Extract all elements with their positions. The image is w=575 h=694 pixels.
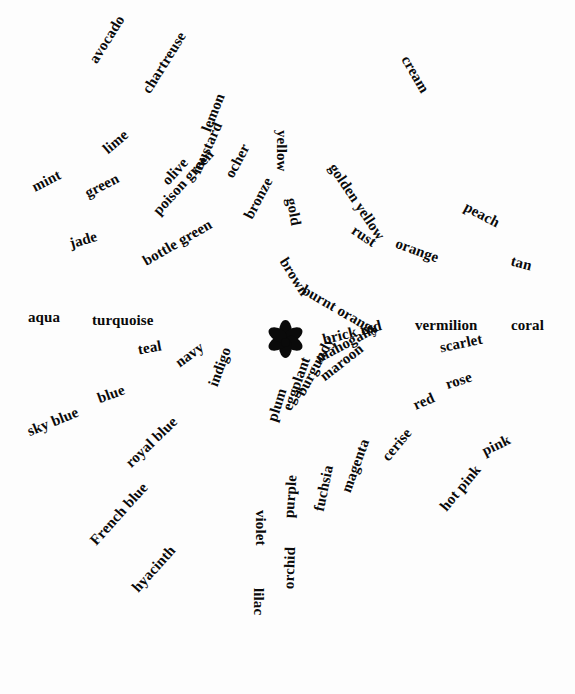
color-word-label: mint — [30, 168, 64, 195]
color-word-label: orchid — [282, 547, 298, 589]
flower-center-hub — [281, 338, 290, 347]
color-word-label: bronze — [241, 175, 275, 221]
color-word-label: cream — [399, 53, 432, 95]
color-word-label: peach — [461, 199, 502, 230]
color-word-label: rose — [444, 370, 474, 393]
color-word-label: tan — [509, 254, 533, 274]
color-word-label: coral — [511, 318, 544, 333]
color-word-label: cerise — [379, 426, 414, 464]
color-word-label: royal blue — [123, 414, 180, 470]
color-word-label: hyacinth — [129, 543, 178, 595]
color-word-label: fuchsia — [312, 464, 336, 513]
radial-word-diagram: avocadochartreuselemonyellowcreamgolden … — [0, 0, 575, 694]
color-word-label: pink — [480, 432, 513, 458]
color-word-label: scarlet — [438, 332, 483, 356]
color-word-label: magenta — [339, 437, 372, 494]
color-word-label: jade — [68, 229, 99, 251]
color-word-label: turquoise — [92, 313, 153, 328]
color-word-label: vermilion — [415, 318, 478, 333]
color-word-label: gold — [284, 197, 304, 227]
color-word-label: yellow — [274, 130, 289, 171]
color-word-label: bottle green — [140, 217, 214, 269]
color-word-label: navy — [173, 340, 207, 371]
color-word-label: red — [411, 390, 437, 413]
color-word-label: lime — [100, 127, 131, 156]
color-word-label: avocado — [87, 13, 128, 66]
color-word-label: French blue — [87, 480, 150, 548]
color-word-label: sky blue — [25, 405, 80, 439]
color-word-label: hot pink — [437, 462, 484, 513]
color-word-label: chartreuse — [140, 29, 189, 96]
color-word-label: violet — [253, 510, 268, 546]
color-word-label: teal — [137, 338, 163, 357]
color-word-label: green — [83, 171, 122, 201]
color-word-label: lilac — [251, 588, 266, 615]
color-word-label: indigo — [206, 345, 234, 388]
color-word-label: aqua — [28, 310, 60, 325]
color-word-label: ocher — [222, 141, 252, 180]
color-word-label: blue — [95, 382, 126, 406]
color-word-label: purple — [282, 474, 300, 518]
color-word-label: orange — [393, 236, 440, 265]
